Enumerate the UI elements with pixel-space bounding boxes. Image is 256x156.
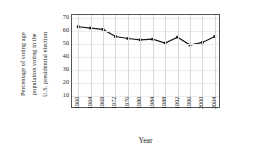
- vertical-gridline: [140, 15, 141, 107]
- vertical-gridline: [190, 15, 191, 107]
- y-axis-title-line-3: U.S. presidential election: [40, 8, 51, 120]
- y-axis-title-line-2: population voting in the: [29, 8, 40, 120]
- horizontal-gridline: [72, 57, 219, 58]
- x-tick-label: 1972: [111, 97, 117, 109]
- x-axis-title: Year: [71, 136, 220, 145]
- x-tick-label: 1976: [124, 97, 130, 109]
- horizontal-gridline: [72, 44, 219, 45]
- horizontal-gridline: [72, 83, 219, 84]
- vertical-gridline: [215, 15, 216, 107]
- x-tick-label: 1980: [136, 97, 142, 109]
- x-tick-label: 2000: [198, 97, 204, 109]
- y-tick-label: 40: [63, 53, 69, 59]
- x-tick-label: 2004: [211, 97, 217, 109]
- horizontal-gridline: [72, 31, 219, 32]
- y-tick-label: 50: [63, 40, 69, 46]
- x-tick-label: 1964: [87, 97, 93, 109]
- x-tick-label: 1960: [74, 97, 80, 109]
- x-tick-label: 1996: [186, 97, 192, 109]
- vertical-gridline: [128, 15, 129, 107]
- x-tick-label: 1968: [99, 97, 105, 109]
- y-tick-label: 30: [63, 66, 69, 72]
- x-tick-label: 1992: [173, 97, 179, 109]
- x-axis-tick-labels: 1960196419681972197619801984198819921996…: [71, 109, 220, 135]
- vertical-gridline: [91, 15, 92, 107]
- y-tick-label: 20: [63, 79, 69, 85]
- y-tick-label: 10: [63, 92, 69, 98]
- plot-area: [71, 14, 220, 108]
- series-polyline: [78, 27, 215, 45]
- horizontal-gridline: [72, 18, 219, 19]
- vertical-gridline: [153, 15, 154, 107]
- horizontal-gridline: [72, 70, 219, 71]
- series-line-voter-turnout: [72, 15, 221, 109]
- y-axis-tick-labels: 10203040506070: [56, 8, 69, 112]
- vertical-gridline: [103, 15, 104, 107]
- y-axis-title-line-1: Percentage of voting age: [18, 8, 29, 120]
- vertical-gridline: [202, 15, 203, 107]
- chart-figure: Percentage of voting age population voti…: [0, 0, 256, 156]
- x-tick-label: 1988: [161, 97, 167, 109]
- y-tick-label: 60: [63, 27, 69, 33]
- vertical-gridline: [115, 15, 116, 107]
- vertical-gridline: [178, 15, 179, 107]
- vertical-gridline: [165, 15, 166, 107]
- y-tick-label: 70: [63, 14, 69, 20]
- x-tick-label: 1984: [149, 97, 155, 109]
- vertical-gridline: [78, 15, 79, 107]
